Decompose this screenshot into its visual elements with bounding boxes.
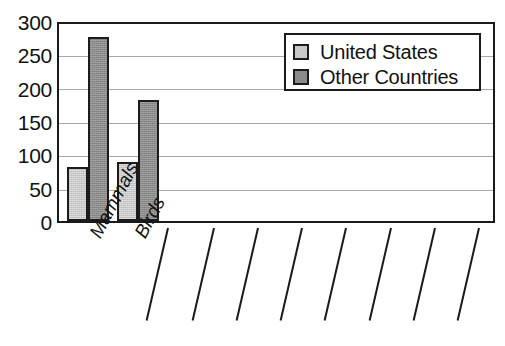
gridline-100 [59, 156, 493, 157]
gridline-150 [59, 123, 493, 124]
legend-label-united-states: United States [320, 42, 437, 62]
legend-item-other-countries: Other Countries [293, 64, 479, 89]
x-axis-tick-slash-2 [192, 228, 215, 321]
legend-item-united-states: United States [293, 39, 479, 64]
legend: United States Other Countries [284, 33, 481, 91]
y-axis-tick-300: 300 [0, 12, 52, 33]
y-axis-tick-100: 100 [0, 145, 52, 166]
y-axis-tick-labels: 300 250 200 150 100 50 0 [0, 0, 52, 346]
x-axis-tick-slash-7 [413, 228, 436, 321]
x-axis-tick-slash-5 [324, 228, 347, 321]
bar-mammals-united-states [67, 167, 88, 221]
y-axis-tick-0: 0 [0, 212, 52, 233]
x-axis-tick-slash-3 [236, 228, 259, 321]
x-axis-tick-slash-1 [146, 228, 169, 321]
y-axis-tick-50: 50 [0, 179, 52, 200]
y-axis-tick-200: 200 [0, 79, 52, 100]
x-axis-tick-slash-8 [457, 228, 480, 321]
legend-label-other-countries: Other Countries [320, 67, 458, 87]
y-axis-tick-250: 250 [0, 45, 52, 66]
y-axis-tick-150: 150 [0, 112, 52, 133]
bar-chart: 300 250 200 150 100 50 0 United States [0, 0, 505, 346]
x-axis-tick-slash-6 [369, 228, 392, 321]
x-axis-tick-slash-4 [280, 228, 303, 321]
legend-swatch-other-countries [293, 69, 309, 85]
legend-swatch-united-states [293, 44, 309, 60]
